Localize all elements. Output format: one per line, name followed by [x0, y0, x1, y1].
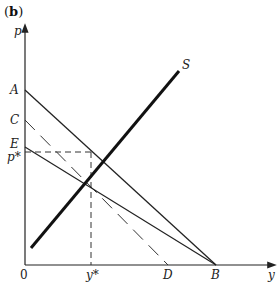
- panel-label: (b): [4, 4, 23, 19]
- y-axis-label: p: [14, 24, 22, 38]
- x-axis-label: y: [267, 268, 275, 282]
- p-star-label: p*: [7, 150, 21, 164]
- supply-curve-S: [31, 71, 179, 248]
- demand-line-CD: [25, 120, 168, 265]
- demand-line-AB: [25, 90, 216, 265]
- supply-demand-diagram: (b) p y 0 A C E p* y* D B S: [0, 0, 277, 286]
- origin-label: 0: [20, 268, 28, 282]
- intercept-label-A: A: [9, 83, 19, 97]
- intercept-label-E: E: [9, 137, 19, 151]
- intercept-label-D: D: [162, 268, 173, 282]
- demand-line-EB: [25, 147, 216, 265]
- y-star-label: y*: [85, 268, 99, 282]
- intercept-label-C: C: [10, 113, 19, 127]
- intercept-label-B: B: [210, 268, 220, 282]
- supply-label-S: S: [182, 58, 190, 72]
